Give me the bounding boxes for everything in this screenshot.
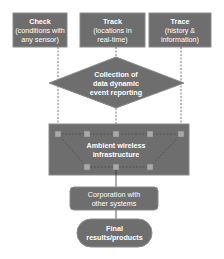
decision-line-3: event reporting — [90, 88, 142, 97]
node-icon — [178, 131, 184, 137]
decision-line-2: data dynamic — [93, 79, 139, 88]
check-desc-2: any sensor) — [21, 35, 59, 44]
infrastructure-line-2: infrastructure — [93, 150, 140, 159]
node-icon — [113, 131, 119, 137]
check-title: Check — [29, 17, 51, 26]
check-desc-1: (conditions with — [15, 26, 65, 35]
corporation-line-1: Corporation with — [88, 190, 140, 199]
trace-desc-2: information) — [161, 35, 199, 44]
trace-label: Trace (history & information) — [149, 13, 211, 47]
decision-label: Collection of data dynamic event reporti… — [76, 68, 156, 98]
final-line-1: Final — [106, 224, 123, 233]
track-label: Track (locations in real-time) — [80, 13, 145, 47]
decision-line-1: Collection of — [94, 70, 138, 79]
node-icon — [113, 164, 119, 170]
final-label: Final results/products — [77, 219, 152, 247]
track-desc-2: real-time) — [97, 35, 127, 44]
node-icon — [84, 131, 90, 137]
corporation-line-2: other systems — [92, 199, 137, 208]
trace-title: Trace — [171, 17, 190, 26]
infrastructure-line-1: Ambient wireless — [86, 141, 145, 150]
track-desc-1: (locations in — [93, 26, 131, 35]
corporation-label: Corporation with other systems — [70, 187, 158, 210]
trace-desc-1: (history & — [165, 26, 195, 35]
node-icon — [147, 131, 153, 137]
infrastructure-label: Ambient wireless infrastructure — [76, 140, 156, 160]
track-title: Track — [103, 17, 122, 26]
node-icon — [55, 131, 61, 137]
node-icon — [84, 164, 90, 170]
node-icon — [147, 164, 153, 170]
check-label: Check (conditions with any sensor) — [13, 13, 67, 47]
final-line-2: results/products — [86, 233, 142, 242]
